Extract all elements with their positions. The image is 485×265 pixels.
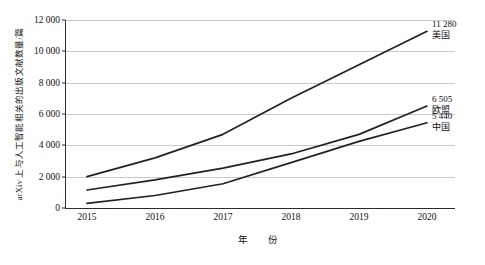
plot-area: 02 0004 0006 0008 00010 00012 000 201520… <box>65 20 455 208</box>
y-tick-label: 0 <box>55 203 60 213</box>
y-tick-label: 8 000 <box>39 78 60 88</box>
y-tick-label: 2 000 <box>39 172 60 182</box>
series-line <box>87 106 427 190</box>
series-name: 美国 <box>432 30 456 41</box>
y-tick-label: 6 000 <box>39 109 60 119</box>
x-tick-label: 2015 <box>78 212 97 222</box>
y-tick-label: 4 000 <box>39 140 60 150</box>
series-label-美国: 11 280美国 <box>432 19 456 41</box>
series-lines <box>65 20 455 208</box>
y-tick-label: 10 000 <box>34 46 60 56</box>
series-line <box>87 31 427 176</box>
x-tick-label: 2019 <box>350 212 369 222</box>
series-label-中国: 5 440中国 <box>432 111 452 133</box>
y-tick-label: 12 000 <box>34 15 60 25</box>
y-axis-title: arXiv 上与人工智能相关的出版文献数量/篇 <box>12 14 24 214</box>
x-axis-line <box>65 208 455 209</box>
x-tick-label: 2017 <box>214 212 233 222</box>
series-name: 中国 <box>432 122 452 133</box>
x-axis-title: 年 份 <box>65 232 455 246</box>
chart-figure: arXiv 上与人工智能相关的出版文献数量/篇 02 0004 0006 000… <box>0 0 485 265</box>
series-end-value: 6 505 <box>432 94 452 105</box>
x-tick-label: 2020 <box>418 212 437 222</box>
x-tick-label: 2018 <box>282 212 301 222</box>
series-end-value: 11 280 <box>432 19 456 30</box>
x-tick-label: 2016 <box>146 212 165 222</box>
series-end-value: 5 440 <box>432 111 452 122</box>
